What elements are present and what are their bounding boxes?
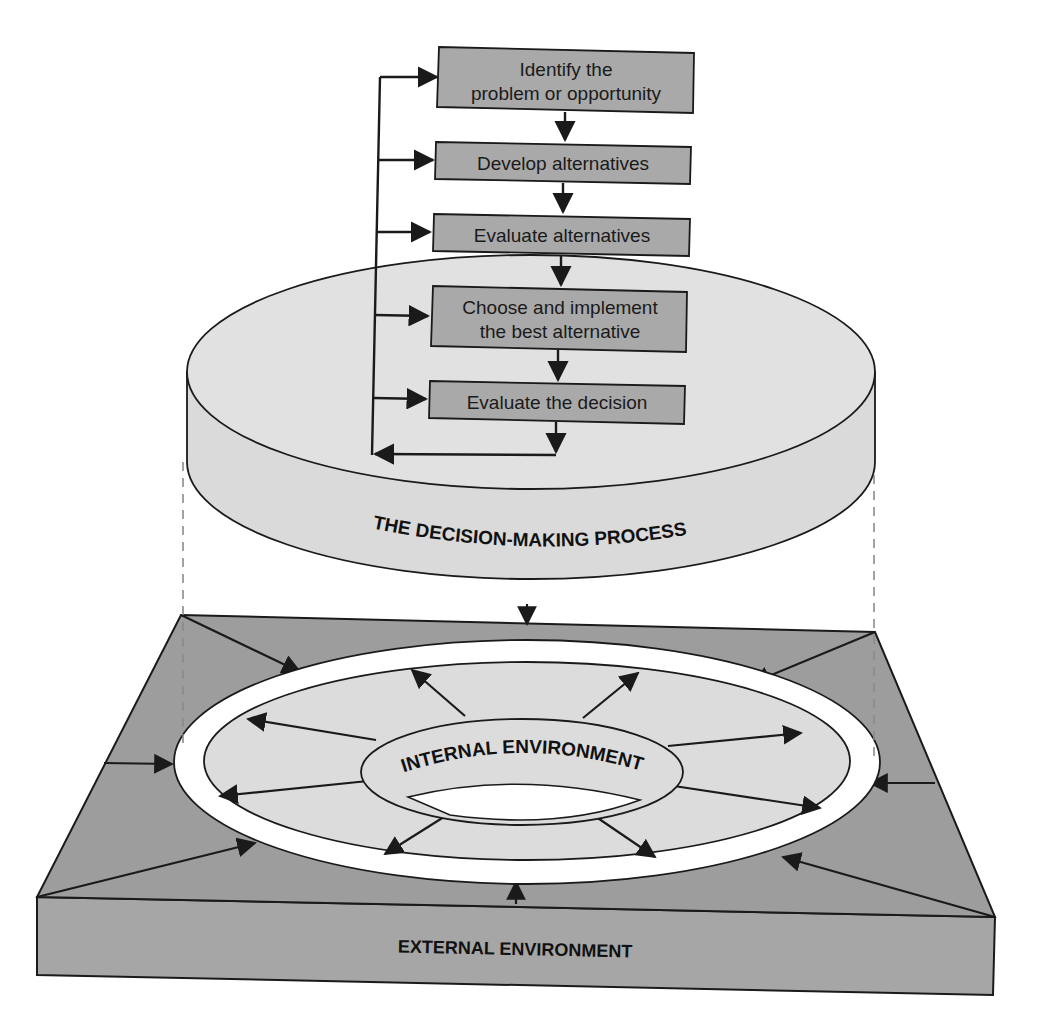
- step-1-line-2: problem or opportunity: [471, 83, 662, 104]
- step-evaluate-alternatives: Evaluate alternatives: [433, 214, 690, 256]
- external-environment-platform: INTERNAL ENVIRONMENT EXTERNAL ENVIRONMEN…: [37, 604, 995, 995]
- step-4-line-2: the best alternative: [480, 321, 641, 342]
- step-1-line-1: Identify the: [520, 59, 613, 80]
- decision-making-diagram: INTERNAL ENVIRONMENT EXTERNAL ENVIRONMEN…: [0, 0, 1039, 1030]
- step-4-line-1: Choose and implement: [462, 297, 658, 318]
- step-identify-problem: Identify the problem or opportunity: [437, 47, 694, 113]
- step-choose-implement: Choose and implement the best alternativ…: [431, 286, 687, 352]
- step-evaluate-decision: Evaluate the decision: [429, 381, 685, 424]
- step-3-label: Evaluate alternatives: [474, 225, 650, 246]
- step-2-label: Develop alternatives: [477, 153, 649, 174]
- step-5-label: Evaluate the decision: [467, 392, 648, 413]
- step-develop-alternatives: Develop alternatives: [435, 142, 691, 184]
